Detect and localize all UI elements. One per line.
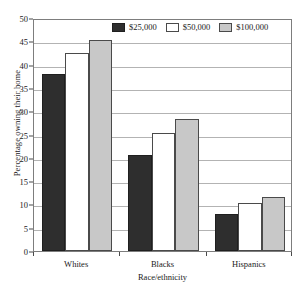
x-axis-title: Race/ethnicity	[33, 272, 292, 282]
x-axis-tick-mark	[291, 252, 292, 256]
bar	[42, 74, 66, 251]
bar	[65, 53, 89, 251]
y-axis-tick-label: 10	[20, 201, 29, 210]
legend-swatch-icon	[166, 23, 179, 32]
bar	[215, 214, 239, 251]
legend-swatch-icon	[112, 23, 125, 32]
bar	[128, 155, 152, 251]
y-axis-tick-label: 50	[20, 15, 29, 24]
bar-chart: 05101520253035404550 Percentage owning t…	[0, 0, 305, 296]
x-axis-tick-mark	[206, 252, 207, 256]
legend-item: $25,000	[112, 22, 157, 32]
legend-label: $50,000	[183, 22, 211, 32]
legend-swatch-icon	[219, 23, 232, 32]
legend-label: $25,000	[129, 22, 157, 32]
gridline	[34, 43, 291, 44]
legend: $25,000$50,000$100,000	[112, 22, 268, 32]
bar	[152, 133, 176, 251]
legend-item: $50,000	[166, 22, 211, 32]
x-axis-tick-label: Blacks	[151, 259, 174, 269]
bar	[238, 203, 262, 251]
legend-label: $100,000	[236, 22, 268, 32]
y-axis-tick-label: 0	[24, 248, 28, 257]
legend-item: $100,000	[219, 22, 268, 32]
bar	[262, 197, 286, 251]
y-axis-title: Percentage owning their home	[12, 48, 22, 198]
bar	[89, 40, 113, 251]
plot-area	[33, 19, 292, 252]
x-axis-tick-label: Whites	[64, 259, 88, 269]
y-axis-tick-label: 5	[24, 224, 28, 233]
x-axis-tick-label: Hispanics	[232, 259, 266, 269]
y-axis-tick-label: 45	[20, 38, 29, 47]
x-axis-tick-mark	[33, 252, 34, 256]
x-axis-tick-mark	[119, 252, 120, 256]
x-axis: WhitesBlacksHispanics	[33, 252, 292, 272]
bar	[175, 119, 199, 251]
